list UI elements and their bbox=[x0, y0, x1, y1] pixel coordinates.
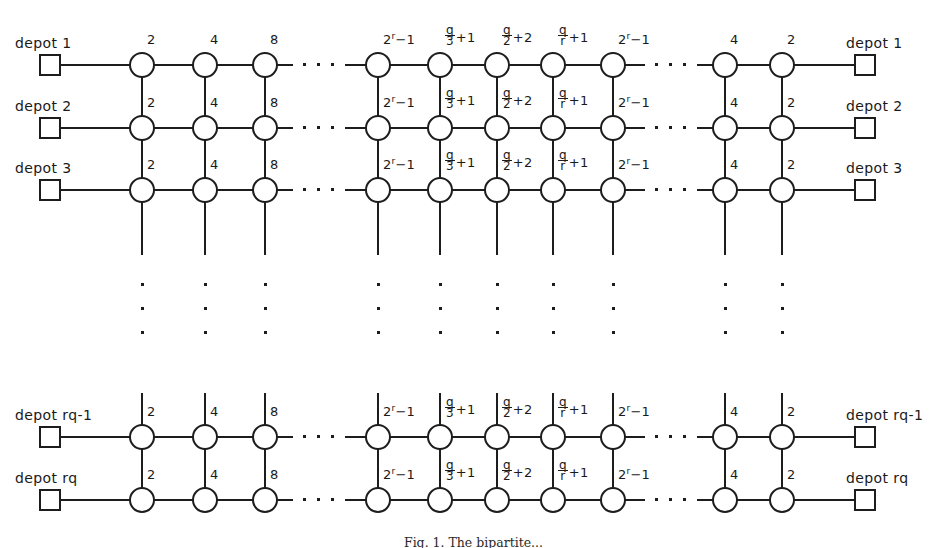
node-r2-c8[interactable] bbox=[600, 115, 626, 141]
node-r2-c1[interactable] bbox=[129, 115, 155, 141]
node-r3-c4[interactable] bbox=[365, 177, 391, 203]
depot-right-row4[interactable] bbox=[854, 426, 876, 448]
edge-weight-r3-c10: 2 bbox=[787, 157, 795, 171]
edge-weight-r4-c2: 4 bbox=[210, 404, 218, 418]
edge-weight-r1-c4: 2r−1 bbox=[383, 32, 415, 47]
edge-weight-r4-c8: 2r−1 bbox=[618, 404, 650, 419]
node-r2-c9[interactable] bbox=[712, 115, 738, 141]
vertical-ellipsis-col7 bbox=[552, 283, 555, 334]
node-r5-c3[interactable] bbox=[252, 487, 278, 513]
node-r4-c4[interactable] bbox=[365, 424, 391, 450]
node-r3-c1[interactable] bbox=[129, 177, 155, 203]
edge-weight-r1-c6: q2+2 bbox=[502, 26, 532, 48]
vertical-ellipsis-col10 bbox=[781, 283, 784, 334]
node-r5-c2[interactable] bbox=[192, 487, 218, 513]
node-r4-c2[interactable] bbox=[192, 424, 218, 450]
vertical-ellipsis-col8 bbox=[612, 283, 615, 334]
edge-weight-r2-c2: 4 bbox=[210, 95, 218, 109]
edge-weight-r1-c8: 2r−1 bbox=[618, 32, 650, 47]
node-r3-c3[interactable] bbox=[252, 177, 278, 203]
depot-left-row3[interactable] bbox=[39, 179, 61, 201]
edge-weight-r4-c5: q3+1 bbox=[445, 398, 475, 420]
node-r5-c9[interactable] bbox=[712, 487, 738, 513]
node-r1-c8[interactable] bbox=[600, 52, 626, 78]
horizontal-ellipsis-row2-1 bbox=[303, 126, 334, 129]
depot-left-row2[interactable] bbox=[39, 117, 61, 139]
node-r5-c8[interactable] bbox=[600, 487, 626, 513]
edge-weight-r4-c3: 8 bbox=[270, 404, 278, 418]
depot-right-row2[interactable] bbox=[854, 117, 876, 139]
node-r1-c2[interactable] bbox=[192, 52, 218, 78]
figure-caption: Fig. 1. The bipartite... bbox=[0, 535, 947, 548]
node-r4-c9[interactable] bbox=[712, 424, 738, 450]
vertical-ellipsis-col4 bbox=[377, 283, 380, 334]
node-r4-c6[interactable] bbox=[484, 424, 510, 450]
edge-weight-r3-c9: 4 bbox=[730, 157, 738, 171]
edge-weight-r1-c9: 4 bbox=[730, 32, 738, 46]
node-r1-c10[interactable] bbox=[769, 52, 795, 78]
node-r1-c9[interactable] bbox=[712, 52, 738, 78]
node-r4-c5[interactable] bbox=[427, 424, 453, 450]
depot-label-right-row3: depot 3 bbox=[846, 161, 903, 175]
node-r2-c5[interactable] bbox=[427, 115, 453, 141]
node-r3-c2[interactable] bbox=[192, 177, 218, 203]
horizontal-ellipsis-row5-1 bbox=[303, 498, 334, 501]
node-r1-c6[interactable] bbox=[484, 52, 510, 78]
horizontal-ellipsis-row2-2 bbox=[655, 126, 686, 129]
depot-left-row5[interactable] bbox=[39, 489, 61, 511]
edge-weight-r2-c7: qr+1 bbox=[558, 89, 588, 111]
node-r4-c10[interactable] bbox=[769, 424, 795, 450]
node-r4-c7[interactable] bbox=[540, 424, 566, 450]
node-r4-c8[interactable] bbox=[600, 424, 626, 450]
node-r5-c5[interactable] bbox=[427, 487, 453, 513]
edge-weight-r4-c4: 2r−1 bbox=[383, 404, 415, 419]
edge-weight-r2-c6: q2+2 bbox=[502, 89, 532, 111]
node-r2-c10[interactable] bbox=[769, 115, 795, 141]
node-r2-c4[interactable] bbox=[365, 115, 391, 141]
edge-weight-r5-c9: 4 bbox=[730, 467, 738, 481]
node-r3-c7[interactable] bbox=[540, 177, 566, 203]
node-r3-c6[interactable] bbox=[484, 177, 510, 203]
depot-label-left-row5: depot rq bbox=[15, 471, 78, 485]
node-r1-c5[interactable] bbox=[427, 52, 453, 78]
node-r2-c3[interactable] bbox=[252, 115, 278, 141]
node-r1-c4[interactable] bbox=[365, 52, 391, 78]
depot-label-left-row2: depot 2 bbox=[15, 99, 72, 113]
node-r5-c7[interactable] bbox=[540, 487, 566, 513]
edge-weight-r1-c3: 8 bbox=[270, 32, 278, 46]
horizontal-ellipsis-row5-2 bbox=[655, 498, 686, 501]
node-r3-c5[interactable] bbox=[427, 177, 453, 203]
depot-right-row3[interactable] bbox=[854, 179, 876, 201]
horizontal-ellipsis-row3-1 bbox=[303, 188, 334, 191]
depot-left-row1[interactable] bbox=[39, 54, 61, 76]
edge-weight-r5-c8: 2r−1 bbox=[618, 467, 650, 482]
vertical-ellipsis-col3 bbox=[264, 283, 267, 334]
node-r3-c10[interactable] bbox=[769, 177, 795, 203]
node-r1-c3[interactable] bbox=[252, 52, 278, 78]
horizontal-ellipsis-row1-1 bbox=[303, 63, 334, 66]
node-r5-c4[interactable] bbox=[365, 487, 391, 513]
node-r4-c1[interactable] bbox=[129, 424, 155, 450]
depot-right-row1[interactable] bbox=[854, 54, 876, 76]
vertical-ellipsis-col5 bbox=[439, 283, 442, 334]
horizontal-ellipsis-row4-2 bbox=[655, 435, 686, 438]
node-r2-c6[interactable] bbox=[484, 115, 510, 141]
edge-weight-r4-c6: q2+2 bbox=[502, 398, 532, 420]
depot-label-right-row4: depot rq-1 bbox=[846, 408, 923, 422]
node-r4-c3[interactable] bbox=[252, 424, 278, 450]
node-r1-c1[interactable] bbox=[129, 52, 155, 78]
edge-weight-r3-c1: 2 bbox=[147, 157, 155, 171]
node-r3-c8[interactable] bbox=[600, 177, 626, 203]
node-r1-c7[interactable] bbox=[540, 52, 566, 78]
edge-weight-r2-c4: 2r−1 bbox=[383, 95, 415, 110]
node-r3-c9[interactable] bbox=[712, 177, 738, 203]
depot-label-left-row1: depot 1 bbox=[15, 36, 72, 50]
depot-left-row4[interactable] bbox=[39, 426, 61, 448]
depot-right-row5[interactable] bbox=[854, 489, 876, 511]
depot-label-right-row1: depot 1 bbox=[846, 36, 903, 50]
node-r5-c10[interactable] bbox=[769, 487, 795, 513]
node-r2-c2[interactable] bbox=[192, 115, 218, 141]
node-r5-c1[interactable] bbox=[129, 487, 155, 513]
node-r5-c6[interactable] bbox=[484, 487, 510, 513]
node-r2-c7[interactable] bbox=[540, 115, 566, 141]
